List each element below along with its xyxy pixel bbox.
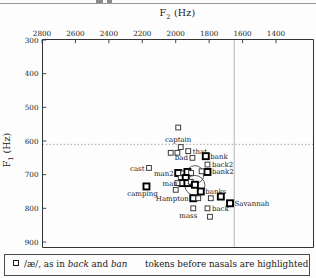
data-point — [208, 214, 213, 219]
data-point-highlighted — [192, 182, 198, 188]
formant-scatter-chart: 2800260024002200200018001600140030040050… — [0, 0, 316, 252]
point-label: that — [193, 148, 207, 156]
point-label: camping — [127, 190, 158, 198]
y-tick-label: 700 — [25, 170, 39, 179]
data-point — [208, 196, 213, 201]
data-point — [205, 162, 210, 167]
data-point — [178, 145, 183, 150]
y-tick-label: 900 — [25, 238, 39, 247]
point-label: banks — [205, 188, 226, 196]
data-point-highlighted — [190, 195, 196, 201]
data-point — [196, 196, 201, 201]
point-label: cast — [130, 165, 145, 173]
point-label: captain — [165, 136, 192, 144]
x-tick-label: 1400 — [267, 29, 286, 38]
x-tick-label: 2600 — [66, 29, 85, 38]
legend-and-text: and — [89, 259, 111, 269]
data-point — [168, 150, 173, 155]
x-tick-label: 2000 — [167, 29, 186, 38]
y-tick-label: 800 — [25, 204, 39, 213]
y-tick-label: 400 — [25, 69, 39, 78]
ae-token-marker-icon — [13, 260, 19, 266]
legend-highlight-note: tokens before nasals are highlighted — [145, 259, 308, 269]
data-point — [190, 155, 195, 160]
x-tick-label: 1600 — [233, 29, 252, 38]
data-point-highlighted — [204, 169, 210, 175]
data-point-highlighted — [143, 183, 149, 189]
data-point — [147, 166, 152, 171]
data-point — [186, 149, 191, 154]
point-label: Hampton — [156, 195, 189, 203]
point-label: man — [163, 180, 179, 188]
data-point — [176, 125, 181, 130]
data-point-highlighted — [198, 189, 204, 195]
point-label: mass — [179, 212, 197, 220]
x-tick-label: 2200 — [133, 29, 152, 38]
data-point — [173, 187, 178, 192]
legend-phoneme-text: /æ/, as in — [24, 259, 68, 269]
x-tick-label: 2400 — [100, 29, 119, 38]
data-point-highlighted — [175, 170, 181, 176]
legend-word-ban: ban — [111, 259, 128, 269]
point-label: bank2 — [212, 168, 234, 176]
data-point — [191, 206, 196, 211]
x-tick-label: 1800 — [200, 29, 219, 38]
data-point — [205, 206, 210, 211]
data-point — [199, 169, 204, 174]
legend-symbol-entry: /æ/, as in back and ban — [13, 259, 127, 269]
y-tick-label: 300 — [25, 36, 39, 45]
point-label: back — [212, 205, 230, 213]
point-label: man2 — [154, 170, 174, 178]
point-label: Savannah — [235, 200, 270, 208]
point-label: bank — [210, 153, 228, 161]
legend-box: /æ/, as in back and ban tokens before na… — [4, 254, 310, 276]
point-label: bad — [175, 154, 189, 162]
legend-word-back: back — [68, 259, 89, 269]
y-tick-label: 500 — [25, 103, 39, 112]
y-tick-label: 600 — [25, 137, 39, 146]
